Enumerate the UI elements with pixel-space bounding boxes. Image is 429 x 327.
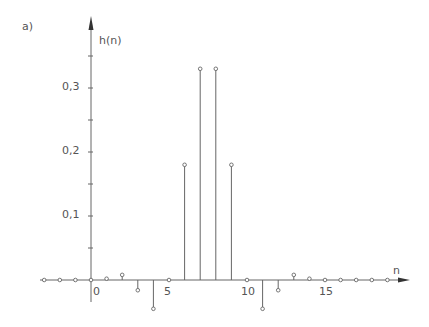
- stem: [167, 278, 171, 282]
- stem: [214, 67, 218, 280]
- x-axis-label: n: [393, 264, 400, 277]
- stem: [152, 280, 156, 311]
- svg-text:0,2: 0,2: [62, 144, 80, 157]
- svg-text:0: 0: [93, 285, 100, 298]
- stem: [276, 280, 280, 292]
- stem: [339, 278, 343, 282]
- y-tick-labels: 0,1 0,2 0,3: [62, 80, 80, 221]
- stem: [183, 163, 187, 280]
- stems: [42, 67, 389, 311]
- y-axis-label: h(n): [99, 34, 122, 47]
- stem: [42, 278, 46, 282]
- svg-text:0,1: 0,1: [62, 208, 80, 221]
- svg-text:0,3: 0,3: [62, 80, 80, 93]
- stem: [74, 278, 78, 282]
- stem: [136, 280, 140, 292]
- stem: [198, 67, 202, 280]
- svg-text:15: 15: [319, 285, 333, 298]
- stem: [354, 278, 358, 282]
- stem: [386, 278, 390, 282]
- axes: [40, 16, 410, 302]
- x-tick-labels: 0 5 10 15: [93, 285, 333, 298]
- svg-text:5: 5: [164, 285, 171, 298]
- svg-text:10: 10: [241, 285, 255, 298]
- stem: [245, 278, 249, 282]
- stem: [89, 278, 93, 282]
- panel-label: a): [22, 20, 33, 33]
- stem: [105, 277, 109, 281]
- stem: [323, 278, 327, 282]
- stem: [58, 278, 62, 282]
- stem: [308, 277, 312, 281]
- stem: [120, 273, 124, 280]
- stem-plot: a) h(n) n 0,1 0,2 0,3 0 5 10 15: [0, 0, 429, 327]
- stem: [292, 273, 296, 280]
- stem: [261, 280, 265, 311]
- stem: [230, 163, 234, 280]
- stem: [370, 278, 374, 282]
